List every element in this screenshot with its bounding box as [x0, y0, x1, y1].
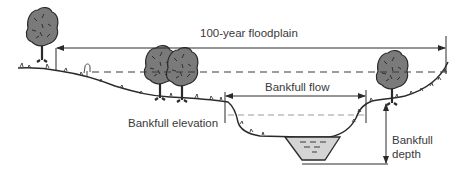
- person-figure-icon: [84, 64, 90, 76]
- tree-icon: [26, 8, 58, 62]
- bankfull-elevation-label: Bankfull elevation: [128, 117, 218, 130]
- bankfull-flow-label: Bankfull flow: [265, 81, 330, 94]
- floodplain-label: 100-year floodplain: [200, 27, 298, 40]
- river-channel: [285, 137, 340, 160]
- bankfull-depth-label-line1: Bankfull: [392, 134, 433, 147]
- bankfull-depth-label-line2: depth: [392, 148, 421, 161]
